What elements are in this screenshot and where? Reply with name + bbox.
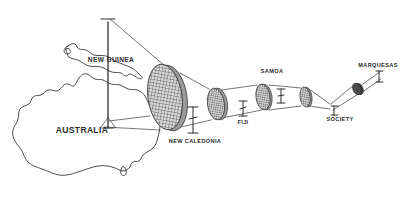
label-new-caledonia: NEW CALEDONIA (169, 138, 221, 144)
label-fiji: FIJI (237, 119, 248, 125)
pacific-islands-diagram: AUSTRALIA NEW GUINEA (0, 0, 410, 198)
label-marquesas: MARQUESAS (358, 62, 398, 68)
label-australia: AUSTRALIA (56, 125, 108, 135)
label-samoa: SAMOA (261, 68, 284, 74)
canvas-background (0, 0, 410, 198)
figure-root: AUSTRALIA NEW GUINEA (0, 0, 410, 198)
label-new-guinea: NEW GUINEA (88, 56, 134, 63)
label-society: SOCIETY (326, 116, 353, 122)
